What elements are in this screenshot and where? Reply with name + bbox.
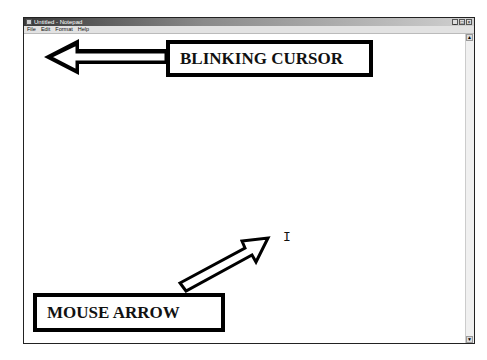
ibeam-pointer-icon: I xyxy=(283,230,291,245)
blinking-cursor-label: BLINKING CURSOR xyxy=(180,49,343,69)
blinking-cursor-callout: BLINKING CURSOR xyxy=(166,40,373,77)
mouse-arrow-label: MOUSE ARROW xyxy=(47,303,180,323)
mouse-arrow-pointer-icon xyxy=(180,238,268,291)
mouse-arrow-callout: MOUSE ARROW xyxy=(33,293,225,332)
